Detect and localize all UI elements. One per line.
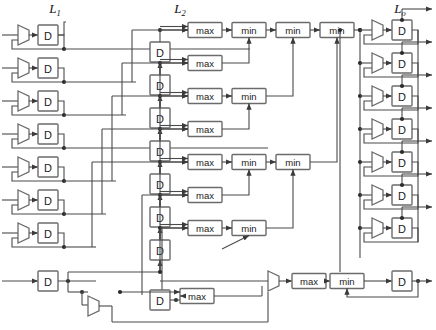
max-block-5[interactable]: max	[188, 155, 222, 170]
min-l1-in2-3[interactable]	[222, 170, 249, 196]
l1-mux-6-shape[interactable]	[18, 190, 29, 210]
min-l1-3[interactable]: min	[232, 155, 266, 170]
lo-register-7-label[interactable]: D	[398, 223, 406, 235]
max-block-6-label[interactable]: max	[196, 190, 214, 201]
lo-mux-5[interactable]	[372, 152, 383, 172]
lo-register-2-label[interactable]: D	[398, 58, 406, 70]
lo-register-4-label[interactable]: D	[398, 124, 406, 136]
min-l1-1[interactable]: min	[232, 23, 266, 38]
lo-register-5-label[interactable]: D	[398, 157, 406, 169]
bottom-max-final-label[interactable]: max	[300, 276, 318, 287]
bottom-register-final-label[interactable]: D	[398, 276, 406, 288]
l1-mux-4-shape[interactable]	[18, 124, 29, 144]
bottom-mux-2-shape[interactable]	[268, 271, 279, 291]
lo-out-node-4[interactable]	[400, 117, 404, 121]
min-l1-in2-4[interactable]	[222, 236, 249, 250]
min-l1-2-label[interactable]: min	[241, 91, 256, 102]
bottom-register-l1[interactable]: D	[38, 271, 58, 291]
min-l1-in2-1[interactable]	[222, 38, 249, 64]
bottom-register-final[interactable]: D	[392, 271, 412, 291]
min-l2-in2-1[interactable]	[266, 38, 293, 97]
max-block-2[interactable]: max	[188, 56, 222, 71]
l1-register-7-label[interactable]: D	[44, 228, 52, 240]
l1-register-4-label[interactable]: D	[44, 129, 52, 141]
lo-mux-6-shape[interactable]	[372, 185, 383, 205]
max-block-5-label[interactable]: max	[196, 157, 214, 168]
lo-mux-1[interactable]	[372, 20, 383, 40]
max-block-7-label[interactable]: max	[196, 223, 214, 234]
bottom-register-l1-label[interactable]: D	[44, 276, 52, 288]
l1-mux-7-shape[interactable]	[18, 223, 29, 243]
min-l1-1-label[interactable]: min	[241, 25, 256, 36]
lo-mux-3[interactable]	[372, 86, 383, 106]
l1-register-5[interactable]: D	[38, 157, 58, 177]
min-l2-2-label[interactable]: min	[285, 157, 300, 168]
lo-bus-tail-node[interactable]	[338, 28, 342, 32]
l1-mux-1[interactable]	[18, 25, 29, 45]
bottom-max-1-in-b-node[interactable]	[118, 290, 122, 294]
lo-mux-7[interactable]	[372, 218, 383, 238]
bottom-register-l2-label[interactable]: D	[156, 295, 164, 307]
l1-mux-3-shape[interactable]	[18, 91, 29, 111]
min-l1-3-label[interactable]: min	[241, 157, 256, 168]
lo-register-4[interactable]: D	[392, 119, 412, 139]
l2-tail-node[interactable]	[158, 270, 162, 274]
lo-out-node-6[interactable]	[400, 183, 404, 187]
l1-mux-4[interactable]	[18, 124, 29, 144]
lo-out-node-2[interactable]	[400, 51, 404, 55]
lo-register-3-label[interactable]: D	[398, 91, 406, 103]
bottom-max-1-label[interactable]: max	[188, 291, 206, 302]
min-l1-2[interactable]: min	[232, 89, 266, 104]
lo-register-7[interactable]: D	[392, 218, 412, 238]
lo-mux-4[interactable]	[372, 119, 383, 139]
max-block-7[interactable]: max	[188, 221, 222, 236]
lo-mux-2[interactable]	[372, 53, 383, 73]
max-block-3[interactable]: max	[188, 89, 222, 104]
l1-mux-3[interactable]	[18, 91, 29, 111]
l1-mux-5[interactable]	[18, 157, 29, 177]
max-block-2-label[interactable]: max	[196, 58, 214, 69]
lo-register-6-label[interactable]: D	[398, 190, 406, 202]
max-block-3-label[interactable]: max	[196, 91, 214, 102]
l1-mux-1-shape[interactable]	[18, 25, 29, 45]
l1-mux-2-shape[interactable]	[18, 58, 29, 78]
min-l2-1[interactable]: min	[276, 23, 310, 38]
l1-mux-5-shape[interactable]	[18, 157, 29, 177]
max-block-1[interactable]: max	[188, 23, 222, 38]
max-block-4-label[interactable]: max	[196, 124, 214, 135]
min-l2-2[interactable]: min	[276, 155, 310, 170]
lo-mux-7-shape[interactable]	[372, 218, 383, 238]
l1-mux-7[interactable]	[18, 223, 29, 243]
l1-register-6[interactable]: D	[38, 190, 58, 210]
max-block-1-label[interactable]: max	[196, 25, 214, 36]
min-l2-in2-2[interactable]	[266, 170, 293, 229]
lo-mux-1-shape[interactable]	[372, 20, 383, 40]
l1-mux-2[interactable]	[18, 58, 29, 78]
min-l2-1-label[interactable]: min	[285, 25, 300, 36]
lo-mux-4-shape[interactable]	[372, 119, 383, 139]
bottom-max-final[interactable]: max	[292, 274, 326, 289]
l1-register-6-label[interactable]: D	[44, 195, 52, 207]
bottom-max-1[interactable]: max	[180, 289, 214, 304]
l1-register-2-label[interactable]: D	[44, 63, 52, 75]
l1-top-riser[interactable]	[58, 22, 66, 35]
l1-register-3-label[interactable]: D	[44, 96, 52, 108]
lo-register-6[interactable]: D	[392, 185, 412, 205]
lo-register-1-label[interactable]: D	[398, 25, 406, 37]
min-l1-4[interactable]: min	[232, 221, 266, 236]
lo-register-5[interactable]: D	[392, 152, 412, 172]
bottom-min-final-label[interactable]: min	[339, 276, 354, 287]
lo-mux-3-shape[interactable]	[372, 86, 383, 106]
min-l3-in2[interactable]	[310, 38, 337, 163]
lo-register-3[interactable]: D	[392, 86, 412, 106]
bottom-register-l2[interactable]: D	[150, 290, 170, 310]
max-block-4[interactable]: max	[188, 122, 222, 137]
min-l3-1[interactable]: min	[320, 23, 354, 38]
bottom-mux-1[interactable]	[88, 296, 99, 316]
min-l3-1-label[interactable]: min	[329, 25, 344, 36]
l2-register-1-label[interactable]: D	[156, 47, 164, 59]
lo-out-node-1[interactable]	[400, 18, 404, 22]
l1-register-5-label[interactable]: D	[44, 162, 52, 174]
lo-register-2[interactable]: D	[392, 53, 412, 73]
bottom-mux-2[interactable]	[268, 271, 279, 291]
